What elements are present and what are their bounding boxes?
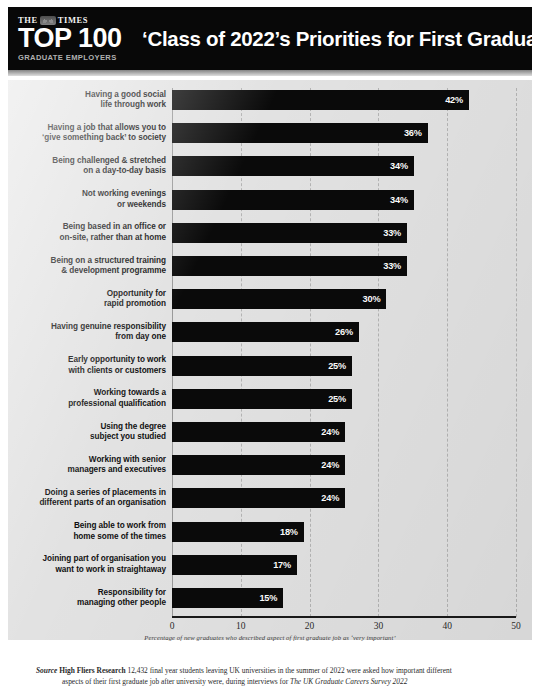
bar-row-label-line-2: on-site, rather than at home <box>8 233 166 244</box>
bar: 24% <box>172 422 345 442</box>
bar-row-label-line-2: subject you studied <box>8 432 166 443</box>
bar-row-label: Having a good sociallife through work <box>8 90 172 111</box>
bar-row-label-line-1: Being able to work from <box>8 521 166 532</box>
x-tick-label-0: 0 <box>170 621 175 631</box>
bar-row-label-line-2: want to work in straightaway <box>8 565 166 576</box>
bar-row-label: Being challenged & stretchedon a day-to-… <box>8 156 172 177</box>
bar: 33% <box>172 256 407 276</box>
bar-value-label: 25% <box>328 394 352 404</box>
bar-row-label-line-2: different parts of an organisation <box>8 498 166 509</box>
bar-row-label: Joining part of organisation youwant to … <box>8 554 172 575</box>
bar-track: 34% <box>172 186 532 214</box>
bar-row-label-line-1: Being challenged & stretched <box>8 156 166 167</box>
x-tick-label-20: 20 <box>305 621 315 631</box>
bar-row-label-line-2: home some of the times <box>8 532 166 543</box>
bar-value-label: 33% <box>383 261 407 271</box>
x-axis-caption: Percentage of new graduates who describe… <box>8 634 532 641</box>
bar-row-label-line-1: Not working evenings <box>8 189 166 200</box>
bar-row-label-line-2: managers and executives <box>8 465 166 476</box>
bar-row-label-line-1: Having genuine responsibility <box>8 322 166 333</box>
bar-row-label: Having genuine responsibilityfrom day on… <box>8 322 172 343</box>
bar-value-label: 25% <box>328 361 352 371</box>
bar-track: 26% <box>172 318 532 346</box>
bar-row-label: Working towards aprofessional qualificat… <box>8 388 172 409</box>
bar-value-label: 24% <box>321 493 345 503</box>
bar-row-label-line-1: Doing a series of placements in <box>8 488 166 499</box>
bar-track: 30% <box>172 285 532 313</box>
bar-value-label: 34% <box>390 195 414 205</box>
bar: 24% <box>172 488 345 508</box>
bar: 33% <box>172 223 407 243</box>
bar-row: Being on a structured training& developm… <box>8 252 532 280</box>
source-line-1: Source High Fliers Research 12,432 final… <box>36 666 532 677</box>
graduate-employers-subtitle: GRADUATE EMPLOYERS <box>18 54 138 62</box>
bar-row-label: Doing a series of placements indifferent… <box>8 488 172 509</box>
survey-name: The UK Graduate Careers Survey 2022 <box>290 677 407 686</box>
x-tick-label-30: 30 <box>374 621 384 631</box>
bar-value-label: 15% <box>259 593 283 603</box>
bar-row-label-line-2: or weekends <box>8 200 166 211</box>
times-top100-logo: THE TIMES TOP 100 GRADUATE EMPLOYERS <box>8 16 138 61</box>
bar-value-label: 33% <box>383 228 407 238</box>
bar-track: 24% <box>172 418 532 446</box>
header-band: THE TIMES TOP 100 GRADUATE EMPLOYERS ‘Cl… <box>8 7 532 70</box>
bar-value-label: 34% <box>390 161 414 171</box>
bar-row: Early opportunity to workwith clients or… <box>8 352 532 380</box>
bar-row-label-line-2: professional qualification <box>8 399 166 410</box>
bar-row: Responsibility formanaging other people1… <box>8 584 532 612</box>
bar: 34% <box>172 190 414 210</box>
bar-row-label-line-1: Working with senior <box>8 455 166 466</box>
bar-row-label: Responsibility formanaging other people <box>8 588 172 609</box>
bar-row: Having genuine responsibilityfrom day on… <box>8 318 532 346</box>
source-note: Source High Fliers Research 12,432 final… <box>36 666 532 687</box>
bar-row-label-line-1: Joining part of organisation you <box>8 554 166 565</box>
x-tick-label-10: 10 <box>236 621 246 631</box>
source-label: Source <box>36 666 57 675</box>
bar-value-label: 30% <box>363 294 387 304</box>
bar-row: Opportunity forrapid promotion30% <box>8 285 532 313</box>
bar-value-label: 24% <box>321 460 345 470</box>
bar-track: 18% <box>172 518 532 546</box>
times-crest-icon <box>40 16 56 25</box>
x-tick-label-40: 40 <box>442 621 452 631</box>
bar-track: 34% <box>172 152 532 180</box>
bar: 34% <box>172 156 414 176</box>
bar-row-label: Working with seniormanagers and executiv… <box>8 455 172 476</box>
infographic-page: THE TIMES TOP 100 GRADUATE EMPLOYERS ‘Cl… <box>0 0 538 699</box>
bar: 25% <box>172 356 352 376</box>
source-organisation: High Fliers Research <box>59 666 125 675</box>
bar: 36% <box>172 123 428 143</box>
bar-row-label: Being on a structured training& developm… <box>8 256 172 277</box>
bar-row-label: Being able to work fromhome some of the … <box>8 521 172 542</box>
source-body-2: aspects of their first graduate job afte… <box>62 677 288 686</box>
bar-value-label: 26% <box>335 327 359 337</box>
source-body: 12,432 final year students leaving UK un… <box>127 666 451 675</box>
bar-row: Being challenged & stretchedon a day-to-… <box>8 152 532 180</box>
bar-value-label: 36% <box>404 128 428 138</box>
bar-track: 24% <box>172 451 532 479</box>
bar-track: 36% <box>172 119 532 147</box>
bar-row: Using the degreesubject you studied24% <box>8 418 532 446</box>
bar-value-label: 17% <box>273 560 297 570</box>
page-title: ‘Class of 2022’s Priorities for First Gr… <box>142 27 532 51</box>
bar-row-label: Early opportunity to workwith clients or… <box>8 355 172 376</box>
bar-value-label: 24% <box>321 427 345 437</box>
bar-row-label-line-1: Having a job that allows you to <box>8 123 166 134</box>
bar-row: Not working eveningsor weekends34% <box>8 186 532 214</box>
bar-row-label-line-1: Working towards a <box>8 388 166 399</box>
bar-row: Having a good sociallife through work42% <box>8 86 532 114</box>
top-100-wordmark: TOP 100 <box>18 26 138 52</box>
bar-row-label: Having a job that allows you to‘give som… <box>8 123 172 144</box>
bar-row: Joining part of organisation youwant to … <box>8 551 532 579</box>
bar-row-label: Using the degreesubject you studied <box>8 422 172 443</box>
bar: 15% <box>172 588 283 608</box>
x-tick-label-50: 50 <box>511 621 521 631</box>
bar: 25% <box>172 389 352 409</box>
source-line-2: aspects of their first graduate job afte… <box>36 677 532 688</box>
bar-row: Doing a series of placements indifferent… <box>8 484 532 512</box>
bar-row-label-line-1: Being on a structured training <box>8 256 166 267</box>
bar-row-label: Not working eveningsor weekends <box>8 189 172 210</box>
bar: 42% <box>172 90 469 110</box>
header-shadow-divider <box>8 70 532 76</box>
bar-track: 33% <box>172 219 532 247</box>
